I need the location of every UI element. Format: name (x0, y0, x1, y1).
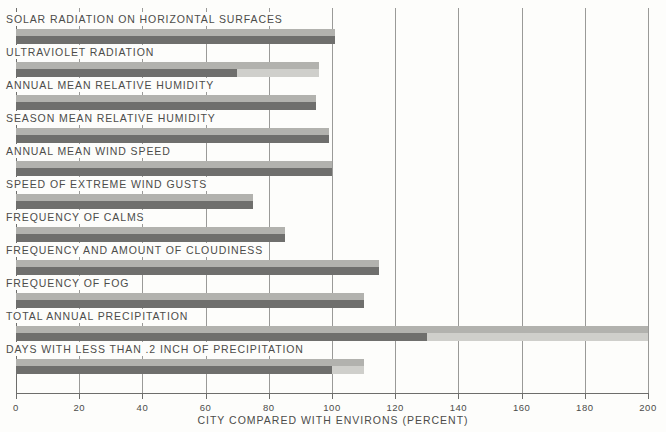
bar-label: SOLAR RADIATION ON HORIZONTAL SURFACES (4, 12, 286, 26)
bar-label: SPEED OF EXTREME WIND GUSTS (4, 177, 210, 191)
bar-label: DAYS WITH LESS THAN .2 INCH OF PRECIPITA… (4, 342, 307, 356)
bar-label: FREQUENCY OF CALMS (4, 210, 148, 224)
bar-label: ANNUAL MEAN RELATIVE HUMIDITY (4, 78, 217, 92)
x-tick-label: 60 (200, 402, 212, 413)
x-tick-label: 180 (576, 402, 593, 413)
bar-dark-segment (16, 366, 332, 374)
chart-row: FREQUENCY OF FOG (0, 274, 666, 307)
chart-row: FREQUENCY AND AMOUNT OF CLOUDINESS (0, 241, 666, 274)
bar-group (0, 62, 666, 76)
x-tick-180 (585, 393, 586, 399)
x-tick-label: 160 (513, 402, 530, 413)
x-tick-label: 40 (137, 402, 149, 413)
bar-group (0, 359, 666, 373)
x-tick-0 (16, 393, 17, 399)
x-tick-60 (206, 393, 207, 399)
bar-group (0, 194, 666, 208)
bar-group (0, 260, 666, 274)
bar-light-segment (16, 293, 364, 300)
chart-row: SPEED OF EXTREME WIND GUSTS (0, 175, 666, 208)
chart-row: SOLAR RADIATION ON HORIZONTAL SURFACES (0, 10, 666, 43)
x-tick-label: 100 (323, 402, 340, 413)
bar-range-extension (332, 366, 364, 374)
bar-light-segment (16, 194, 253, 201)
x-axis-title: CITY COMPARED WITH ENVIRONS (PERCENT) (0, 414, 666, 426)
x-tick-40 (142, 393, 143, 399)
bar-light-segment (16, 161, 332, 168)
bar-label: FREQUENCY AND AMOUNT OF CLOUDINESS (4, 243, 266, 257)
bar-light-segment (16, 260, 379, 267)
x-tick-label: 80 (263, 402, 275, 413)
bar-light-segment (16, 359, 364, 366)
chart-row: FREQUENCY OF CALMS (0, 208, 666, 241)
x-tick-160 (522, 393, 523, 399)
bar-group (0, 293, 666, 307)
bar-label: FREQUENCY OF FOG (4, 276, 132, 290)
bar-label: ULTRAVIOLET RADIATION (4, 45, 157, 59)
bar-group (0, 128, 666, 142)
bar-light-segment (16, 326, 648, 333)
x-tick-80 (269, 393, 270, 399)
bar-light-segment (16, 62, 319, 69)
x-tick-200 (648, 393, 649, 399)
chart-row: TOTAL ANNUAL PRECIPITATION (0, 307, 666, 340)
chart-row: ANNUAL MEAN WIND SPEED (0, 142, 666, 175)
chart-row: DAYS WITH LESS THAN .2 INCH OF PRECIPITA… (0, 340, 666, 373)
x-tick-140 (458, 393, 459, 399)
bar-chart: SOLAR RADIATION ON HORIZONTAL SURFACESUL… (0, 0, 666, 432)
x-tick-label: 0 (13, 402, 19, 413)
bar-label: SEASON MEAN RELATIVE HUMIDITY (4, 111, 219, 125)
bar-light-segment (16, 227, 285, 234)
chart-row: SEASON MEAN RELATIVE HUMIDITY (0, 109, 666, 142)
chart-row: ANNUAL MEAN RELATIVE HUMIDITY (0, 76, 666, 109)
bar-group (0, 227, 666, 241)
bar-label: TOTAL ANNUAL PRECIPITATION (4, 309, 191, 323)
chart-row: ULTRAVIOLET RADIATION (0, 43, 666, 76)
x-tick-label: 120 (387, 402, 404, 413)
x-tick-label: 140 (450, 402, 467, 413)
x-tick-20 (79, 393, 80, 399)
bar-group (0, 29, 666, 43)
x-tick-120 (395, 393, 396, 399)
x-tick-100 (332, 393, 333, 399)
x-tick-label: 20 (73, 402, 85, 413)
bar-group (0, 326, 666, 340)
bar-group (0, 95, 666, 109)
x-tick-label: 200 (639, 402, 656, 413)
bar-light-segment (16, 29, 335, 36)
bar-light-segment (16, 95, 316, 102)
bar-light-segment (16, 128, 329, 135)
bar-group (0, 161, 666, 175)
bar-label: ANNUAL MEAN WIND SPEED (4, 144, 174, 158)
